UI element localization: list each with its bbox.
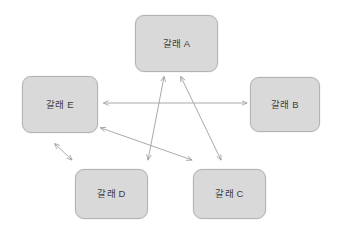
node-galrae-c[interactable]: 갈래 C (193, 169, 266, 219)
node-label-d: 갈래 D (97, 189, 125, 199)
edge-a-d (148, 77, 164, 160)
node-galrae-a[interactable]: 갈래 A (135, 15, 218, 72)
node-label-b: 갈래 B (271, 100, 299, 110)
diagram-canvas: 갈래 A 갈래 B 갈래 C 갈래 D 갈래 E (0, 0, 340, 240)
node-label-c: 갈래 C (215, 189, 243, 199)
node-label-a: 갈래 A (163, 39, 191, 49)
node-galrae-d[interactable]: 갈래 D (75, 169, 148, 219)
edge-a-c (181, 77, 221, 160)
node-label-e: 갈래 E (46, 100, 74, 110)
node-galrae-b[interactable]: 갈래 B (250, 77, 320, 132)
edge-e-c (101, 128, 192, 160)
edge-e-d (55, 144, 72, 160)
node-galrae-e[interactable]: 갈래 E (22, 76, 98, 133)
